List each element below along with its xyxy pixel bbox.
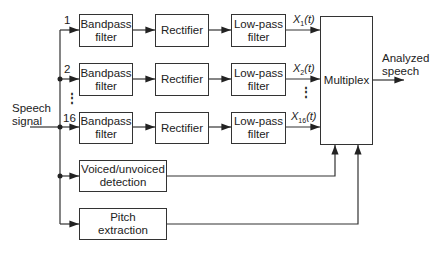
- signal-label-x1: X1(t): [293, 13, 315, 27]
- channel-ellipsis: ⋮: [66, 92, 78, 105]
- rectifier-box: Rectifier: [155, 112, 209, 144]
- box-text: Pitch: [98, 211, 148, 224]
- box-text: Low-pass: [234, 18, 283, 31]
- box-text: Low-pass: [234, 67, 283, 80]
- output-label: Analyzed speech: [382, 52, 429, 78]
- box-text: Bandpass: [80, 18, 131, 31]
- box-text: Voiced/unvoiced: [81, 163, 165, 176]
- input-label-line: Speech: [12, 102, 51, 115]
- signal-arg: (t): [304, 62, 314, 74]
- box-text: filter: [234, 31, 283, 44]
- multiplex-box: Multiplex: [320, 16, 373, 145]
- bandpass-filter-box: Bandpassfilter: [79, 112, 133, 144]
- output-label-line: Analyzed: [382, 52, 429, 65]
- box-text: filter: [80, 128, 131, 141]
- input-label: Speech signal: [12, 102, 51, 128]
- box-text: Bandpass: [80, 115, 131, 128]
- channel-number: 2: [64, 63, 70, 76]
- bandpass-filter-box: Bandpassfilter: [79, 63, 133, 96]
- voiced-unvoiced-detection-box: Voiced/unvoiceddetection: [79, 160, 167, 192]
- channel-number: 16: [63, 112, 76, 125]
- signal-ellipsis: ⋮: [300, 86, 312, 99]
- rectifier-box: Rectifier: [155, 63, 209, 96]
- box-text: filter: [234, 128, 283, 141]
- box-text: filter: [80, 80, 131, 93]
- signal-arg: (t): [304, 13, 314, 25]
- signal-label-x16: X16(t): [291, 110, 317, 124]
- bandpass-filter-box: Bandpassfilter: [79, 14, 133, 47]
- box-text: detection: [81, 176, 165, 189]
- lowpass-filter-box: Low-passfilter: [231, 63, 286, 96]
- box-text: filter: [80, 31, 131, 44]
- output-label-line: speech: [382, 65, 429, 78]
- box-text: Low-pass: [234, 115, 283, 128]
- signal-subscript: 16: [298, 117, 306, 124]
- input-label-line: signal: [12, 115, 51, 128]
- pitch-extraction-box: Pitchextraction: [79, 208, 167, 240]
- rectifier-box: Rectifier: [155, 14, 209, 47]
- channel-number: 1: [64, 14, 70, 27]
- lowpass-filter-box: Low-passfilter: [231, 112, 286, 144]
- box-text: extraction: [98, 224, 148, 237]
- lowpass-filter-box: Low-passfilter: [231, 14, 286, 47]
- signal-arg: (t): [306, 110, 316, 122]
- box-text: Bandpass: [80, 67, 131, 80]
- signal-label-x2: X2(t): [293, 62, 315, 76]
- box-text: filter: [234, 80, 283, 93]
